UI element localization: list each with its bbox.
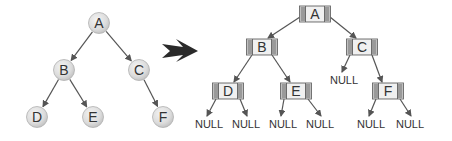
edge-F-null-right [400,99,411,116]
node-label: A [310,6,320,22]
edge-B-D [234,55,252,82]
tree-node-B: B [54,60,75,81]
edge-C-F [372,55,382,82]
node-label: C [357,39,367,55]
node-label: F [159,109,168,125]
null-label: NULL [330,74,358,86]
null-label: NULL [232,118,260,130]
null-label: NULL [195,118,223,130]
null-label: NULL [269,118,297,130]
node-label: E [88,109,97,125]
list-node-D: D [213,83,244,99]
tree-node-D: D [27,107,48,128]
edge-D-null-left [207,99,216,116]
right-tree: NULLNULLNULLNULLNULLNULLNULLABCDEF [195,6,424,130]
tree-node-F: F [153,107,174,128]
edge-A-B [268,17,300,38]
list-node-B: B [247,39,278,55]
edge-A-C [330,17,356,38]
node-label: D [223,83,233,99]
list-node-C: C [347,39,378,55]
node-label: F [384,83,393,99]
node-label: B [257,39,266,55]
edge-A-C [106,31,131,60]
node-label: C [134,62,144,78]
node-label: E [291,83,300,99]
edge-C-null-left [342,55,350,72]
edge-B-E [272,55,290,82]
node-label: D [32,109,42,125]
node-label: A [94,15,104,31]
tree-node-E: E [83,107,104,128]
edge-D-null-right [240,99,247,116]
edge-B-E [70,79,87,106]
binary-tree-diagram: ABCDEF NULLNULLNULLNULLNULLNULLNULLABCDE… [0,0,452,141]
edge-C-F [144,80,158,107]
edge-B-D [43,80,59,107]
list-node-F: F [373,83,404,99]
list-node-A: A [300,6,331,22]
transform-arrow-icon [162,39,198,62]
tree-node-C: C [129,60,150,81]
edge-A-B [71,32,92,61]
edge-E-null-left [281,99,284,116]
list-node-E: E [281,83,312,99]
tree-node-A: A [89,13,110,34]
edge-E-null-right [308,99,321,116]
left-tree: ABCDEF [27,13,174,128]
node-label: B [59,62,68,78]
null-label: NULL [357,118,385,130]
edge-F-null-left [369,99,376,116]
null-label: NULL [396,118,424,130]
null-label: NULL [306,118,334,130]
